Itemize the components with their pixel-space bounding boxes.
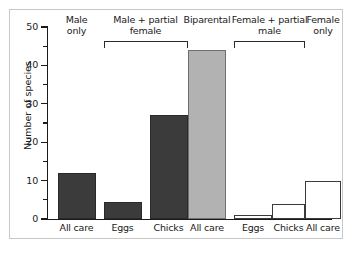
y-axis-line (47, 26, 48, 220)
x-tick-label: All care (51, 222, 103, 233)
x-tick-label: Eggs (97, 222, 149, 233)
group-label: Femaleonly (275, 14, 355, 36)
x-tick-label: All care (297, 222, 349, 233)
bar (150, 115, 188, 219)
y-tick-major (41, 180, 47, 181)
bar (188, 50, 226, 219)
plot-area: Number of species 01020304050 All careEg… (0, 0, 355, 260)
bar (104, 202, 142, 219)
bar (272, 204, 305, 219)
y-tick-major (41, 218, 47, 219)
group-bracket (104, 41, 188, 48)
y-tick-minor (43, 199, 47, 200)
y-tick-major (41, 142, 47, 143)
x-tick-label: All care (181, 222, 233, 233)
group-bracket (234, 41, 305, 48)
bar (305, 181, 341, 219)
y-tick-label: 0 (12, 213, 38, 224)
y-tick-label: 10 (12, 175, 38, 186)
y-tick-minor (43, 84, 47, 85)
group-label-line: Female (275, 14, 355, 25)
y-tick-minor (43, 46, 47, 47)
y-tick-minor (43, 161, 47, 162)
y-tick-major (41, 65, 47, 66)
y-tick-minor (43, 122, 47, 123)
y-tick-label: 20 (12, 136, 38, 147)
group-label-line: female (98, 25, 194, 36)
bar (58, 173, 96, 219)
figure-container: Number of species 01020304050 All careEg… (0, 0, 355, 260)
bar (234, 215, 272, 219)
y-tick-major (41, 103, 47, 104)
y-tick-label: 30 (12, 98, 38, 109)
y-tick-label: 40 (12, 59, 38, 70)
group-label-line: only (275, 25, 355, 36)
